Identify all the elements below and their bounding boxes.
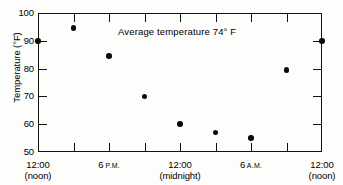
data-point xyxy=(319,38,325,44)
data-point xyxy=(248,135,254,141)
x-tick-label: 6 P.M. xyxy=(69,157,149,171)
x-tick-label: 6 A.M. xyxy=(211,157,291,171)
x-axis-tick xyxy=(216,143,217,152)
y-axis-tick-right xyxy=(313,96,322,97)
x-axis-tick-top xyxy=(287,13,288,22)
x-axis-tick-top xyxy=(216,13,217,22)
temperature-scatter-chart: 5060708090100 Temperature (°F) Average t… xyxy=(0,0,343,185)
x-axis-tick-top xyxy=(109,13,110,22)
x-tick-label-sub: (midnight) xyxy=(140,170,220,181)
y-tick-label: 50 xyxy=(4,147,34,157)
x-tick-label-meridiem: A.M. xyxy=(245,162,262,169)
y-axis-tick-right xyxy=(313,124,322,125)
data-point xyxy=(35,38,41,44)
y-axis-title: Temperature (°F) xyxy=(11,8,22,128)
average-temperature-annotation: Average temperature 74° F xyxy=(118,26,236,37)
data-point xyxy=(177,121,183,127)
x-tick-label-main: 12:00 xyxy=(26,159,49,170)
x-tick-label-main: 12:00 xyxy=(168,159,191,170)
x-axis-tick xyxy=(74,143,75,152)
data-point xyxy=(106,53,112,59)
x-axis-tick xyxy=(287,143,288,152)
x-tick-label-sub: (noon) xyxy=(282,170,343,181)
x-tick-label-main: 12:00 xyxy=(310,159,333,170)
x-tick-label-sub: (noon) xyxy=(0,170,78,181)
x-axis-tick-top xyxy=(180,13,181,22)
data-point xyxy=(284,67,290,73)
x-axis-tick xyxy=(180,143,181,152)
y-axis-tick xyxy=(38,124,47,125)
x-axis-tick-top xyxy=(74,13,75,22)
y-axis-tick-right xyxy=(313,69,322,70)
x-tick-label: 12:00(midnight) xyxy=(140,157,220,181)
x-axis-tick xyxy=(145,143,146,152)
x-tick-label-meridiem: P.M. xyxy=(103,162,119,169)
x-axis-tick-top xyxy=(145,13,146,22)
x-tick-label: 12:00(noon) xyxy=(0,157,78,181)
y-axis-tick xyxy=(38,69,47,70)
x-tick-label: 12:00(noon) xyxy=(282,157,343,181)
x-axis-tick xyxy=(109,143,110,152)
x-axis-tick-top xyxy=(251,13,252,22)
x-axis-tick xyxy=(251,143,252,152)
y-axis-tick xyxy=(38,96,47,97)
